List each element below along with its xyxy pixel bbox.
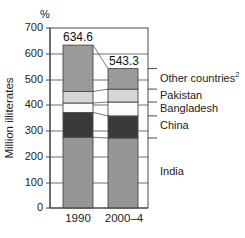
legend-tick-marks — [148, 69, 157, 138]
bar-2000-4[interactable] — [108, 69, 138, 208]
segment-bangladesh-1990[interactable] — [63, 103, 93, 113]
total-label-1990: 634.6 — [63, 30, 93, 44]
segment-bangladesh-2000-4[interactable] — [108, 102, 138, 116]
segment-other-1990[interactable] — [63, 45, 93, 91]
y-tick-700: 700 — [25, 21, 43, 33]
legend-item-other-countries: Other countries2 — [160, 70, 239, 84]
legend: Other countries2 Pakistan Bangladesh Chi… — [160, 70, 239, 177]
legend-item-bangladesh: Bangladesh — [160, 102, 218, 114]
segment-pakistan-1990[interactable] — [63, 92, 93, 104]
y-axis-tick-labels: 700 600 500 400 300 200 100 0 — [25, 21, 43, 213]
category-label-2000-4: 2000–4 — [105, 212, 144, 224]
segment-other-2000-4[interactable] — [108, 69, 138, 90]
segment-china-1990[interactable] — [63, 113, 93, 138]
category-label-1990: 1990 — [65, 212, 91, 224]
y-tick-200: 200 — [25, 150, 43, 162]
segment-india-1990[interactable] — [63, 137, 93, 208]
bar-1990[interactable] — [63, 45, 93, 208]
y-tick-100: 100 — [25, 176, 43, 188]
percent-symbol: % — [40, 8, 50, 20]
y-tick-0: 0 — [37, 201, 43, 213]
svg-text:Million illiterates: Million illiterates — [3, 77, 15, 158]
segment-pakistan-2000-4[interactable] — [108, 89, 138, 102]
y-tick-500: 500 — [25, 73, 43, 85]
segment-china-2000-4[interactable] — [108, 116, 138, 138]
y-axis-title: Million illiterates — [3, 77, 15, 158]
legend-item-china: China — [160, 119, 190, 131]
legend-item-india: India — [160, 165, 185, 177]
segment-india-2000-4[interactable] — [108, 138, 138, 208]
chart-svg: % Million illiterates 700 600 500 400 30… — [0, 0, 245, 238]
total-label-2000-4: 543.3 — [109, 54, 139, 68]
y-tick-400: 400 — [25, 98, 43, 110]
stacked-bar-chart: % Million illiterates 700 600 500 400 30… — [0, 0, 245, 238]
legend-item-pakistan: Pakistan — [160, 89, 202, 101]
y-tick-600: 600 — [25, 47, 43, 59]
y-tick-300: 300 — [25, 124, 43, 136]
